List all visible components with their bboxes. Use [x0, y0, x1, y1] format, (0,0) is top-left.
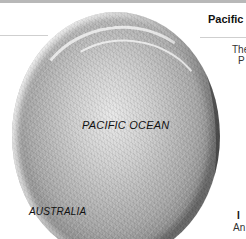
body-text-line: P	[238, 55, 245, 66]
section-title: Pacific	[208, 13, 243, 25]
top-border-strip	[0, 0, 246, 3]
map-label-pacific-ocean: PACIFIC OCEAN	[82, 119, 169, 131]
body-text-line: An	[233, 222, 245, 233]
body-text-line: The	[232, 44, 246, 55]
atlas-page: PACIFIC OCEAN AUSTRALIA Pacific The P I …	[0, 0, 246, 239]
map-label-australia: AUSTRALIA	[29, 206, 86, 217]
subheading-fragment: I	[237, 210, 240, 221]
